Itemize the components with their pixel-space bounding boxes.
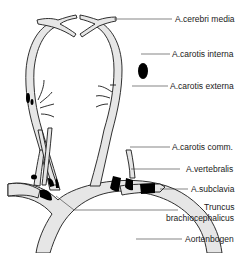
stenosis-left-carotid-ext (31, 99, 34, 105)
right-vertebral (126, 150, 135, 178)
stenosis-left-ica (26, 93, 30, 103)
stenosis-right-carotid-ext (138, 63, 148, 79)
label-vertebralis: A.vertebralis (186, 164, 233, 174)
stenosis-right-subclavian (140, 183, 155, 194)
aortic-arch-diagram: A.cerebri media A.carotis interna A.caro… (0, 0, 248, 253)
left-carotid-vessel (26, 22, 60, 190)
label-carotis-interna: A.carotis interna (172, 49, 233, 59)
left-ext-carotid-branches (38, 80, 54, 117)
label-carotis-externa: A.carotis externa (170, 81, 234, 91)
label-carotis-comm: A.carotis comm. (172, 142, 233, 152)
label-truncus-line2: brachiocephalicus (166, 213, 234, 223)
label-aortenbogen: Aortenbogen (185, 234, 234, 244)
stenosis-left-subclavian-origin (31, 175, 37, 180)
label-cerebri-media: A.cerebri media (175, 14, 235, 24)
label-subclavia: A.subclavia (191, 184, 234, 194)
label-truncus-line1: Truncus (204, 202, 234, 212)
